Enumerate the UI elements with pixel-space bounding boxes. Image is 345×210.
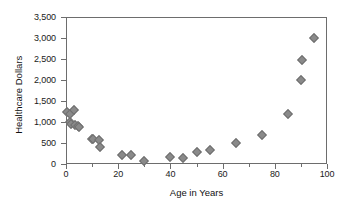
y-axis-tick-label: 1,500 <box>34 97 56 106</box>
y-axis-tick-label-group: 05001,0001,5002,0002,5003,0003,500 <box>0 0 64 210</box>
x-axis-tick-label: 100 <box>320 170 335 179</box>
plot-area <box>66 17 327 164</box>
y-axis-tick-label: 0 <box>51 160 56 169</box>
healthcare-cost-by-age-scatter-chart: Healthcare Dollars 05001,0001,5002,0002,… <box>0 0 345 210</box>
y-axis-tick-label: 1,000 <box>34 118 56 127</box>
x-axis-tick-label: 20 <box>113 170 123 179</box>
x-axis-tick-mark <box>170 164 171 169</box>
y-axis-tick-label: 3,500 <box>34 13 56 22</box>
x-axis-tick-label: 0 <box>64 170 69 179</box>
x-axis-tick-mark <box>118 164 119 169</box>
x-axis-tick-label: 40 <box>165 170 175 179</box>
x-axis-tick-label: 80 <box>270 170 280 179</box>
x-axis-tick-mark <box>223 164 224 169</box>
x-axis-minor-tick-mark <box>249 164 250 167</box>
y-axis-tick-label: 3,000 <box>34 34 56 43</box>
x-axis-tick-mark <box>275 164 276 169</box>
x-axis-tick-mark <box>66 164 67 169</box>
x-axis-minor-tick-mark <box>301 164 302 167</box>
x-axis-minor-tick-mark <box>92 164 93 167</box>
x-axis-minor-tick-mark <box>197 164 198 167</box>
y-axis-tick-label: 500 <box>41 139 56 148</box>
x-axis-tick-mark <box>327 164 328 169</box>
x-axis-title: Age in Years <box>66 188 327 198</box>
y-axis-tick-label: 2,500 <box>34 55 56 64</box>
x-axis-tick-label: 60 <box>218 170 228 179</box>
y-axis-tick-label: 2,000 <box>34 76 56 85</box>
